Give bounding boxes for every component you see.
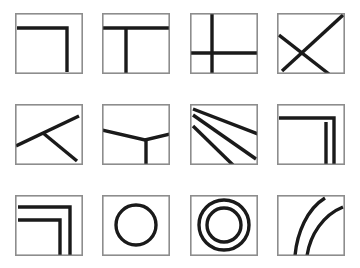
tile-frame (16, 196, 82, 255)
tile-corner-bracket-double-vertical (277, 104, 345, 165)
tile-frame (191, 14, 257, 73)
tile-frame (278, 196, 344, 255)
tile-frame (16, 14, 82, 73)
tile-curves-parallel-arcs (277, 195, 345, 256)
tile-circle-concentric-double (190, 195, 258, 256)
tile-cross-plus (190, 13, 258, 74)
tile-corner-bracket-nested-double (15, 195, 83, 256)
tile-x-cross-diagonals (277, 13, 345, 74)
tile-circle-single (102, 195, 170, 256)
tile-y-junction-shallow-v (102, 104, 170, 165)
tile-arrow-chevron-left (15, 104, 83, 165)
tile-corner-bracket-single (15, 13, 83, 74)
tile-t-junction-down (102, 13, 170, 74)
tile-frame (103, 14, 169, 73)
tile-fan-rays-three (190, 104, 258, 165)
tile-frame (103, 105, 169, 164)
tile-frame (191, 196, 257, 255)
tile-grid (0, 0, 360, 268)
